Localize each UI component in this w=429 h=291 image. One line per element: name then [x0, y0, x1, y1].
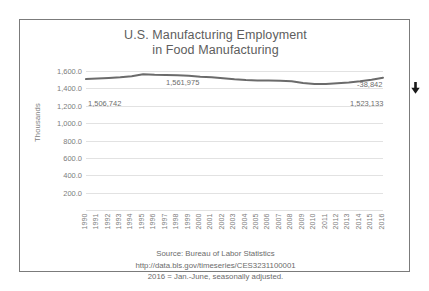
- data-label-end-value: 1,523,133: [350, 99, 383, 108]
- data-label-peak-value: 1,561,975: [166, 78, 199, 87]
- chart-title: U.S. Manufacturing Employment in Food Ma…: [20, 28, 411, 58]
- x-axis-tick: 2016: [372, 212, 406, 246]
- chart-title-line-2: in Food Manufacturing: [20, 43, 411, 58]
- down-arrow-icon: [411, 82, 420, 94]
- x-axis-labels: 1990199119921993199419951996199719981999…: [86, 212, 383, 246]
- y-axis-tick-label: 1,200.0: [57, 101, 82, 110]
- series-line-chart: [86, 71, 383, 210]
- series-path-food-manufacturing: [86, 74, 383, 84]
- footer-note: 2016 = Jan.-June, seasonally adjusted.: [20, 271, 411, 283]
- footer-url: http://data.bls.gov/timeseries/CES323110…: [20, 260, 411, 272]
- y-axis-tick-label: 400.0: [63, 171, 82, 180]
- axis-baseline: [86, 210, 383, 211]
- plot-area: 1,600.01,400.01,200.01,000.0800.0600.040…: [86, 71, 383, 210]
- chart-title-line-1: U.S. Manufacturing Employment: [124, 28, 307, 42]
- x-axis-tick-label: 2016: [377, 214, 384, 248]
- chart-screenshot: U.S. Manufacturing Employment in Food Ma…: [0, 0, 429, 291]
- y-axis-tick-label: 800.0: [63, 136, 82, 145]
- y-axis-tick-label: 1,400.0: [57, 84, 82, 93]
- data-label-net-change: -38,842: [357, 80, 382, 89]
- y-axis-title: Thousands: [33, 88, 42, 158]
- y-axis-tick-label: 1,600.0: [57, 67, 82, 76]
- chart-footer: Source: Bureau of Labor Statistics http:…: [20, 248, 411, 283]
- footer-source: Source: Bureau of Labor Statistics: [20, 248, 411, 260]
- y-axis-tick-label: 1,000.0: [57, 119, 82, 128]
- data-label-start-value: 1,506,742: [88, 99, 121, 108]
- y-axis-tick-label: 600.0: [63, 153, 82, 162]
- y-axis-tick-label: 200.0: [63, 188, 82, 197]
- chart-frame: U.S. Manufacturing Employment in Food Ma…: [19, 19, 410, 272]
